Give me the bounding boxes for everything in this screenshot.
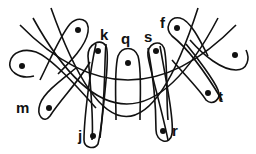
dot-r	[160, 128, 166, 134]
dot-f	[174, 25, 180, 31]
label-t: t	[218, 88, 223, 105]
dot-q	[125, 60, 131, 66]
loop-j	[84, 44, 106, 147]
outer-arc	[51, 8, 198, 117]
dot-top-left	[75, 27, 81, 33]
dot-t	[205, 90, 211, 96]
dot-s	[153, 48, 159, 54]
loop-t	[172, 44, 219, 102]
label-j: j	[77, 127, 82, 144]
dot-j	[90, 133, 96, 139]
knot-diagram: k q s f m j r t	[0, 0, 256, 154]
dot-k	[95, 48, 101, 54]
dot-left	[19, 63, 25, 69]
label-m: m	[16, 99, 29, 116]
dot-m	[46, 105, 52, 111]
label-r: r	[172, 122, 178, 139]
label-q: q	[121, 30, 130, 47]
label-k: k	[100, 26, 109, 43]
loop-q	[116, 49, 141, 121]
dot-right	[232, 52, 238, 58]
label-s: s	[144, 28, 152, 45]
loop-s	[148, 43, 168, 140]
label-f: f	[160, 14, 166, 31]
